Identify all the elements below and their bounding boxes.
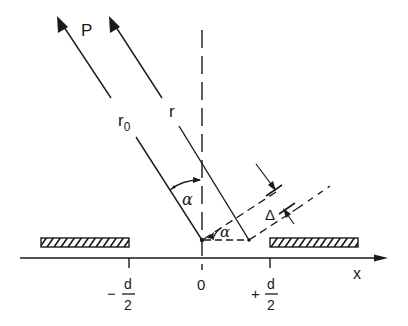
tick-left-label: − d 2 — [107, 276, 135, 313]
x-axis-label: x — [353, 265, 361, 282]
x-axis-arrow-icon — [374, 255, 388, 262]
delta-dimension — [256, 164, 295, 224]
alpha-bottom-label: α — [220, 223, 230, 241]
svg-text:−: − — [107, 285, 116, 302]
svg-text:d: d — [124, 276, 132, 292]
tick-right-label: + d 2 — [251, 276, 278, 313]
svg-text:2: 2 — [124, 297, 132, 313]
svg-text:d: d — [267, 276, 275, 292]
r0-label: r0 — [118, 111, 131, 134]
alpha-top-label: α — [182, 190, 193, 209]
slit-diffraction-diagram: P r0 r α α Δ x 0 − d 2 + d 2 — [0, 0, 408, 326]
svg-text:+: + — [251, 285, 260, 302]
screen-right-slab — [270, 238, 358, 247]
delta-label: Δ — [265, 206, 275, 223]
r-label: r — [169, 102, 175, 121]
screen-left-slab — [41, 238, 129, 247]
beam-label: P — [81, 21, 92, 40]
svg-text:2: 2 — [267, 297, 275, 313]
origin-label: 0 — [197, 276, 205, 293]
origin-point — [200, 238, 204, 242]
x-axis — [20, 255, 388, 269]
